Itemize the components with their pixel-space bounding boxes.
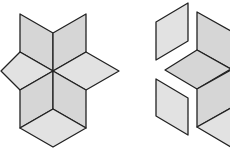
rhombus-diagram: [0, 0, 230, 151]
separated-pieces-figure: [156, 3, 230, 147]
rhombus-piece-upper-left: [156, 3, 188, 60]
rhombus-piece-lower-left: [156, 79, 188, 135]
assembled-star-figure: [1, 14, 119, 147]
